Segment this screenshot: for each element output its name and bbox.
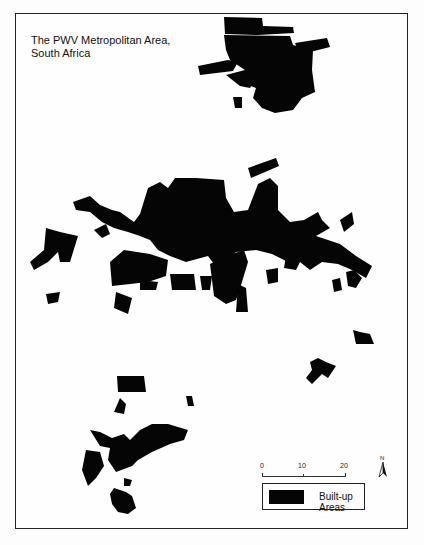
central-cluster — [30, 158, 372, 314]
north-label: N — [380, 455, 384, 461]
legend: Built-up Areas — [262, 483, 365, 510]
legend-label-built-up: Built-up Areas — [319, 491, 364, 513]
northern-cluster — [198, 17, 330, 113]
scale-tick-10: 10 — [298, 462, 306, 469]
scale-bar: 0 10 20 — [258, 462, 348, 482]
north-arrow: N — [378, 456, 388, 478]
legend-swatch-built-up — [269, 490, 304, 504]
eastern-patches — [306, 330, 374, 384]
scale-tick-0: 0 — [260, 462, 264, 469]
built-up-areas-map — [0, 0, 424, 545]
north-arrow-icon — [378, 462, 388, 478]
scale-line — [262, 473, 346, 477]
scale-mid-tick — [303, 474, 304, 477]
scale-tick-20: 20 — [340, 462, 348, 469]
southern-cluster — [82, 376, 194, 514]
